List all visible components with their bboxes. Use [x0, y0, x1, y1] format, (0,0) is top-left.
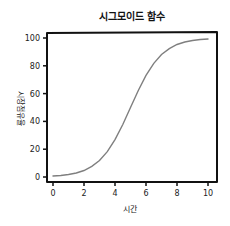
sigmoid-chart: 시그모이드 함수 020406080100 0246810 시간 시장점유율 — [0, 0, 230, 226]
x-tick-label: 8 — [174, 189, 179, 198]
x-tick-label: 4 — [112, 189, 117, 198]
y-tick-label: 0 — [35, 173, 40, 182]
y-tick-label: 20 — [30, 145, 40, 154]
x-axis-ticks: 0246810 — [50, 182, 213, 198]
chart-title: 시그모이드 함수 — [99, 10, 165, 22]
x-tick-label: 6 — [143, 189, 148, 198]
x-tick-label: 2 — [81, 189, 86, 198]
x-tick-label: 10 — [203, 189, 213, 198]
y-axis-ticks: 020406080100 — [25, 34, 47, 182]
sigmoid-line — [53, 39, 208, 176]
x-tick-label: 0 — [50, 189, 55, 198]
y-tick-label: 60 — [30, 90, 40, 99]
plot-area — [47, 32, 217, 182]
y-tick-label: 40 — [30, 117, 40, 126]
y-axis-label: 시장점유율 — [16, 91, 26, 126]
axes-frame — [47, 32, 217, 182]
y-tick-label: 100 — [25, 34, 40, 43]
x-axis-label: 시간 — [123, 204, 138, 214]
y-tick-label: 80 — [30, 62, 40, 71]
